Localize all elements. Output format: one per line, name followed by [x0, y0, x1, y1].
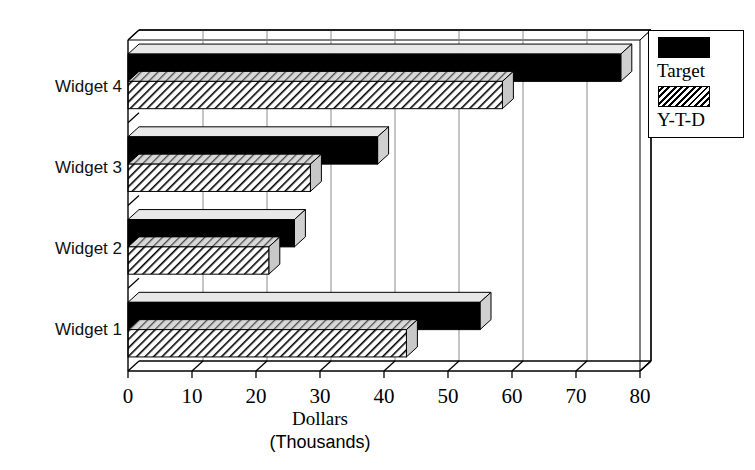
axis-x-labels: 01020304050607080 [0, 384, 755, 410]
y-tick-label-widget-3: Widget 3 [17, 158, 122, 178]
x-tick-label-20: 20 [246, 384, 267, 408]
x-tick-label-30: 30 [310, 384, 331, 408]
bar-widget-4-y-t-d [128, 71, 513, 108]
axis-y-labels: Widget 4 Widget 3 Widget 2 Widget 1 [10, 0, 122, 400]
legend-swatch-target [658, 37, 710, 58]
y-tick-label-widget-4: Widget 4 [17, 77, 122, 97]
bar-chart: Widget 4 Widget 3 Widget 2 Widget 1 0102… [0, 0, 755, 470]
legend-label-target: Target [657, 59, 736, 83]
y-tick-label-widget-2: Widget 2 [17, 239, 122, 259]
x-tick-label-70: 70 [566, 384, 587, 408]
x-tick-label-40: 40 [374, 384, 395, 408]
bar-widget-3-y-t-d [128, 154, 321, 191]
x-axis-subtitle: (Thousands) [0, 432, 640, 453]
legend: Target Y-T-D [648, 30, 744, 138]
legend-swatch-ytd [658, 86, 710, 107]
x-tick-label-0: 0 [123, 384, 134, 408]
x-tick-label-10: 10 [182, 384, 203, 408]
x-tick-label-50: 50 [438, 384, 459, 408]
bar-widget-1-y-t-d [128, 320, 417, 357]
legend-label-ytd: Y-T-D [657, 108, 736, 132]
x-tick-label-80: 80 [630, 384, 651, 408]
bar-widget-2-y-t-d [128, 237, 280, 274]
x-axis-title: Dollars [0, 408, 640, 430]
x-tick-label-60: 60 [502, 384, 523, 408]
y-tick-label-widget-1: Widget 1 [17, 320, 122, 340]
